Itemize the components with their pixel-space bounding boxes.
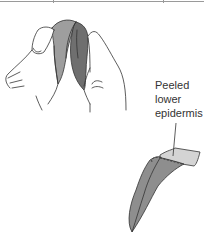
peeled-lower-epidermis-label: Peeled lower epidermis (155, 78, 203, 120)
label-line: Peeled (155, 78, 203, 92)
label-line: lower (155, 92, 203, 106)
hand-with-leaf (6, 20, 126, 112)
peeled-leaf (129, 148, 200, 232)
leaf-peel-illustration (0, 0, 216, 248)
label-line: epidermis (155, 106, 203, 120)
